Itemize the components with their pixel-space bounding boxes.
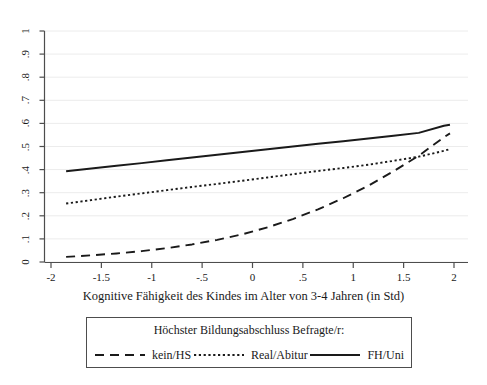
y-axis-tick-label-text: .3 bbox=[19, 180, 31, 206]
legend-entry-kein-hs[interactable]: kein/HS bbox=[94, 348, 191, 363]
legend: Höchster Bildungsabschluss Befragte/r: k… bbox=[86, 317, 412, 368]
y-axis-tick-label-text: .8 bbox=[19, 64, 31, 90]
series-line-real-abitur bbox=[66, 149, 450, 204]
x-axis-tick-label: -1.5 bbox=[81, 270, 121, 284]
y-axis-tick-label: 0 bbox=[12, 256, 38, 268]
y-axis-tick-label: .7 bbox=[12, 94, 38, 106]
legend-label: kein/HS bbox=[152, 348, 191, 363]
y-axis-tick-label: .6 bbox=[12, 117, 38, 129]
legend-key-dotted-icon bbox=[193, 350, 245, 360]
y-axis-tick-label: .4 bbox=[12, 164, 38, 176]
x-axis-tick-label: -1 bbox=[132, 270, 172, 284]
legend-label: FH/Uni bbox=[367, 348, 404, 363]
gridlines bbox=[45, 31, 469, 262]
y-axis-tick-label-text: .5 bbox=[19, 134, 31, 160]
legend-entry-real-abitur[interactable]: Real/Abitur bbox=[193, 348, 308, 363]
legend-label: Real/Abitur bbox=[251, 348, 308, 363]
x-axis-ticks bbox=[51, 263, 454, 269]
legend-entries: kein/HSReal/AbiturFH/Uni bbox=[87, 345, 411, 365]
y-axis-tick-label-text: .2 bbox=[19, 203, 31, 229]
y-axis-tick-label: 1 bbox=[12, 25, 38, 37]
y-axis-tick-label-text: .1 bbox=[19, 226, 31, 252]
x-axis-title: Kognitive Fähigkeit des Kindes im Alter … bbox=[0, 289, 487, 304]
legend-key-solid-icon bbox=[309, 350, 361, 360]
series-line-fh-uni bbox=[66, 125, 450, 171]
legend-title: Höchster Bildungsabschluss Befragte/r: bbox=[87, 323, 411, 338]
y-axis-tick-label-text: 0 bbox=[19, 249, 31, 275]
x-axis-tick-label: 1.5 bbox=[384, 270, 424, 284]
legend-key-dashed-icon bbox=[94, 350, 146, 360]
data-series-layer bbox=[66, 125, 450, 257]
x-axis-tick-label: 0 bbox=[233, 270, 273, 284]
y-axis-tick-label: .8 bbox=[12, 71, 38, 83]
y-axis-tick-label: .3 bbox=[12, 187, 38, 199]
y-axis-tick-label-text: .6 bbox=[19, 110, 31, 136]
x-axis-tick-label: -2 bbox=[31, 270, 71, 284]
y-axis-tick-label: .9 bbox=[12, 48, 38, 60]
x-axis-tick-label: 1 bbox=[333, 270, 373, 284]
y-axis-tick-label-text: .9 bbox=[19, 41, 31, 67]
y-axis-ticks bbox=[40, 31, 45, 262]
y-axis-tick-label-text: .4 bbox=[19, 157, 31, 183]
chart-figure: 0.1.2.3.4.5.6.7.8.91 -2-1.5-1-.50.511.52… bbox=[0, 0, 487, 385]
legend-entry-fh-uni[interactable]: FH/Uni bbox=[309, 348, 404, 363]
x-axis-tick-label: 2 bbox=[434, 270, 474, 284]
x-axis-tick-label: .5 bbox=[283, 270, 323, 284]
x-axis-tick-label: -.5 bbox=[182, 270, 222, 284]
y-axis-tick-label-text: .7 bbox=[19, 87, 31, 113]
y-axis-tick-label: .1 bbox=[12, 233, 38, 245]
y-axis-tick-label: .2 bbox=[12, 210, 38, 222]
y-axis-tick-label: .5 bbox=[12, 141, 38, 153]
y-axis-tick-label-text: 1 bbox=[19, 18, 31, 44]
